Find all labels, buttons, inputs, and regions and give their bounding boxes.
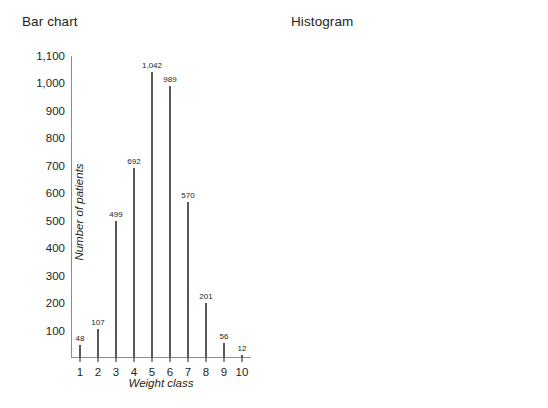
- data-spike: [97, 329, 99, 358]
- x-tick-mark: [97, 358, 98, 362]
- y-tick-label: 400: [46, 242, 65, 254]
- data-spike: [205, 303, 207, 358]
- y-tick-label: 800: [46, 132, 65, 144]
- chart-column: 1210: [233, 56, 251, 358]
- x-tick-mark: [169, 358, 170, 362]
- x-tick-mark: [79, 358, 80, 362]
- x-tick-label: 5: [149, 366, 155, 378]
- data-value-label: 48: [76, 334, 85, 343]
- y-tick-label: 700: [46, 160, 65, 172]
- y-tick-label: 900: [46, 105, 65, 117]
- data-value-label: 1,042: [142, 61, 162, 70]
- data-value-label: 12: [238, 344, 247, 353]
- data-value-label: 107: [91, 318, 104, 327]
- x-tick-label: 6: [167, 366, 173, 378]
- x-tick-mark: [151, 358, 152, 362]
- x-tick-label: 4: [131, 366, 137, 378]
- data-value-label: 56: [220, 332, 229, 341]
- data-spike: [223, 343, 225, 358]
- x-tick-mark: [223, 358, 224, 362]
- data-value-label: 201: [199, 292, 212, 301]
- y-tick-label: 1,100: [36, 50, 65, 62]
- x-tick-label: 7: [185, 366, 191, 378]
- y-tick-label: 100: [46, 325, 65, 337]
- chart-column: 569: [215, 56, 233, 358]
- y-tick-label: 1,000: [36, 77, 65, 89]
- data-spike: [79, 345, 81, 358]
- chart-column: 9896: [161, 56, 179, 358]
- panel-title-histogram: Histogram: [291, 14, 353, 29]
- x-tick-mark: [187, 358, 188, 362]
- y-tick-label: 500: [46, 215, 65, 227]
- x-tick-label: 2: [95, 366, 101, 378]
- x-axis-title: Weight class: [71, 377, 251, 389]
- data-value-label: 692: [127, 157, 140, 166]
- data-spike: [151, 72, 153, 358]
- y-tick-label: 300: [46, 270, 65, 282]
- data-spike: [133, 168, 135, 358]
- y-tick-label: 200: [46, 297, 65, 309]
- y-tick-label: 600: [46, 187, 65, 199]
- x-tick-label: 8: [203, 366, 209, 378]
- data-spike: [169, 86, 171, 358]
- x-tick-mark: [241, 358, 242, 362]
- chart-column: 481: [71, 56, 89, 358]
- panel-title-bar-chart: Bar chart: [22, 14, 78, 29]
- data-value-label: 570: [181, 191, 194, 200]
- x-tick-label: 1: [77, 366, 83, 378]
- chart-column: 2018: [197, 56, 215, 358]
- panel-histogram: Histogram Number of patients Weight clas…: [274, 0, 548, 408]
- data-value-label: 989: [163, 75, 176, 84]
- x-tick-mark: [115, 358, 116, 362]
- data-spike: [187, 202, 189, 358]
- chart-column: 4993: [107, 56, 125, 358]
- chart-column: 5707: [179, 56, 197, 358]
- chart-column: 1,0425: [143, 56, 161, 358]
- x-tick-label: 10: [236, 366, 249, 378]
- x-tick-mark: [205, 358, 206, 362]
- plot-area-bar-chart: Number of patients Weight class 10020030…: [71, 56, 251, 358]
- x-tick-mark: [133, 358, 134, 362]
- data-spike: [241, 355, 243, 358]
- data-value-label: 499: [109, 210, 122, 219]
- data-spike: [115, 221, 117, 358]
- x-tick-label: 3: [113, 366, 119, 378]
- chart-column: 1072: [89, 56, 107, 358]
- x-tick-label: 9: [221, 366, 227, 378]
- chart-column: 6924: [125, 56, 143, 358]
- panel-bar-chart: Bar chart Number of patients Weight clas…: [0, 0, 274, 408]
- two-panel-chart-figure: Bar chart Number of patients Weight clas…: [0, 0, 548, 408]
